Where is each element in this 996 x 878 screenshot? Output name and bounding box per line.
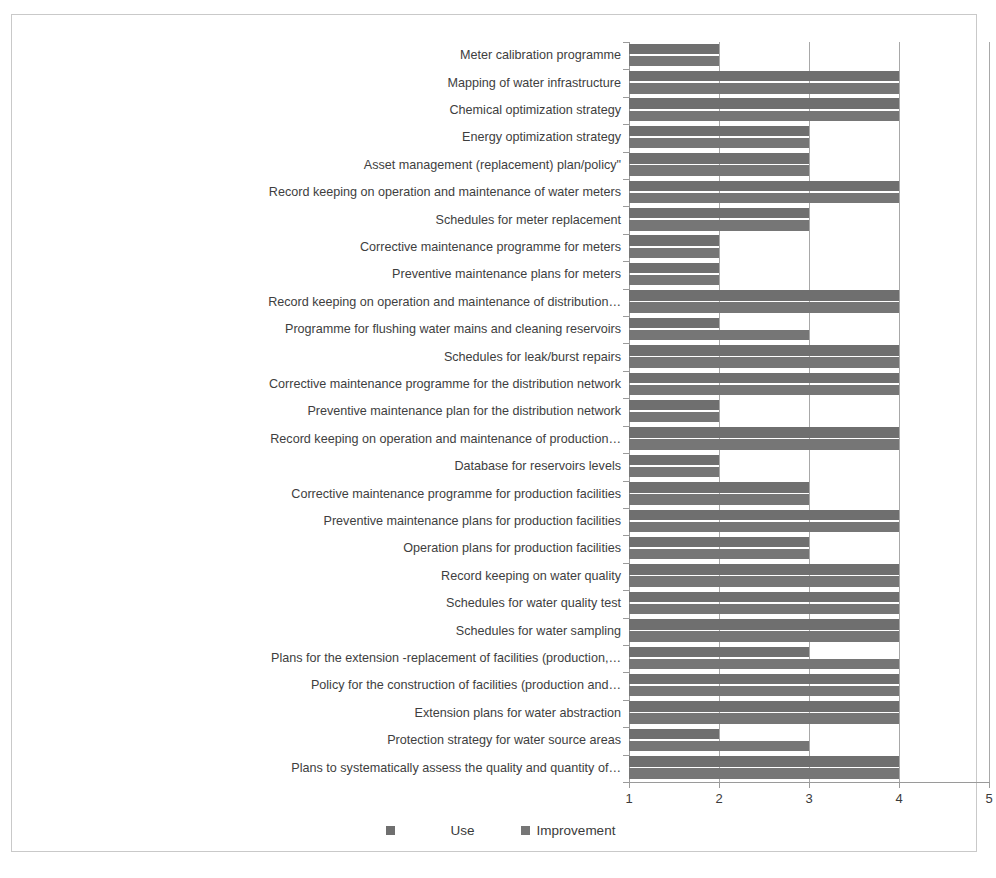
category-tick (623, 755, 629, 756)
x-axis-tick-label: 2 (699, 791, 739, 806)
bar-use (629, 126, 809, 136)
bar-improvement (629, 248, 719, 258)
x-axis-tick-label: 4 (879, 791, 919, 806)
bar-improvement (629, 56, 719, 66)
bar-group (629, 69, 989, 96)
x-axis-tick (719, 782, 720, 788)
legend-item-use: Use (386, 823, 475, 838)
chart-row: Record keeping on operation and maintena… (12, 426, 989, 453)
bar-use (629, 318, 719, 328)
chart-row: Programme for flushing water mains and c… (12, 316, 989, 343)
bar-improvement (629, 111, 899, 121)
bar-group (629, 343, 989, 370)
category-label: Schedules for water quality test (12, 597, 629, 610)
chart-row: Operation plans for production facilitie… (12, 535, 989, 562)
bar-group (629, 316, 989, 343)
bar-group (629, 152, 989, 179)
bar-group (629, 508, 989, 535)
bar-use (629, 455, 719, 465)
category-tick (623, 97, 629, 98)
bar-group (629, 590, 989, 617)
bar-improvement (629, 549, 809, 559)
category-label: Schedules for leak/burst repairs (12, 351, 629, 364)
category-label: Asset management (replacement) plan/poli… (12, 159, 629, 172)
bar-rows-container: Meter calibration programmeMapping of wa… (12, 42, 989, 782)
bar-group (629, 234, 989, 261)
chart-row: Corrective maintenance programme for the… (12, 371, 989, 398)
bar-group (629, 179, 989, 206)
category-label: Database for reservoirs levels (12, 460, 629, 473)
category-label: Chemical optimization strategy (12, 104, 629, 117)
category-tick (623, 535, 629, 536)
category-tick (623, 179, 629, 180)
category-label: Preventive maintenance plans for product… (12, 515, 629, 528)
bar-group (629, 453, 989, 480)
chart-frame: Meter calibration programmeMapping of wa… (11, 14, 977, 852)
bar-use (629, 153, 809, 163)
chart-row: Record keeping on operation and maintena… (12, 289, 989, 316)
legend-swatch-use (386, 826, 395, 835)
category-tick (623, 69, 629, 70)
chart-row: Extension plans for water abstraction (12, 700, 989, 727)
category-label: Extension plans for water abstraction (12, 707, 629, 720)
chart-legend: Use Improvement (12, 823, 989, 838)
bar-use (629, 592, 899, 602)
chart-row: Preventive maintenance plan for the dist… (12, 398, 989, 425)
category-label: Record keeping on operation and maintena… (12, 296, 629, 309)
category-tick (623, 453, 629, 454)
chart-row: Plans to systematically assess the quali… (12, 755, 989, 782)
legend-label-improvement: Improvement (537, 823, 616, 838)
chart-row: Schedules for meter replacement (12, 206, 989, 233)
bar-improvement (629, 83, 899, 93)
bar-improvement (629, 138, 809, 148)
bar-improvement (629, 631, 899, 641)
category-tick (623, 42, 629, 43)
bar-improvement (629, 439, 899, 449)
chart-row: Protection strategy for water source are… (12, 727, 989, 754)
chart-row: Record keeping on operation and maintena… (12, 179, 989, 206)
bar-use (629, 263, 719, 273)
chart-row: Schedules for water quality test (12, 590, 989, 617)
bar-improvement (629, 357, 899, 367)
category-tick (623, 371, 629, 372)
category-tick (623, 398, 629, 399)
chart-row: Corrective maintenance programme for pro… (12, 481, 989, 508)
bar-improvement (629, 220, 809, 230)
category-label: Record keeping on water quality (12, 570, 629, 583)
bar-use (629, 564, 899, 574)
bar-improvement (629, 385, 899, 395)
category-tick (623, 727, 629, 728)
legend-label-use: Use (451, 823, 475, 838)
bar-use (629, 400, 719, 410)
bar-group (629, 535, 989, 562)
category-label: Schedules for meter replacement (12, 214, 629, 227)
x-axis-tick-label: 3 (789, 791, 829, 806)
chart-row: Meter calibration programme (12, 42, 989, 69)
category-tick (623, 289, 629, 290)
bar-improvement (629, 467, 719, 477)
bar-use (629, 181, 899, 191)
bar-group (629, 727, 989, 754)
category-label: Preventive maintenance plan for the dist… (12, 405, 629, 418)
chart-row: Asset management (replacement) plan/poli… (12, 152, 989, 179)
category-tick (623, 700, 629, 701)
category-label: Plans to systematically assess the quali… (12, 762, 629, 775)
bar-group (629, 700, 989, 727)
gridline-5 (989, 42, 990, 782)
chart-row: Chemical optimization strategy (12, 97, 989, 124)
category-tick (623, 508, 629, 509)
bar-use (629, 71, 899, 81)
chart-row: Policy for the construction of facilitie… (12, 672, 989, 699)
category-label: Corrective maintenance programme for met… (12, 241, 629, 254)
bar-use (629, 290, 899, 300)
chart-row: Schedules for leak/burst repairs (12, 343, 989, 370)
category-label: Protection strategy for water source are… (12, 734, 629, 747)
category-label: Record keeping on operation and maintena… (12, 186, 629, 199)
bar-use (629, 482, 809, 492)
category-label: Corrective maintenance programme for the… (12, 378, 629, 391)
bar-use (629, 208, 809, 218)
bar-use (629, 345, 899, 355)
bar-group (629, 124, 989, 151)
x-axis-tick (899, 782, 900, 788)
bar-use (629, 756, 899, 766)
